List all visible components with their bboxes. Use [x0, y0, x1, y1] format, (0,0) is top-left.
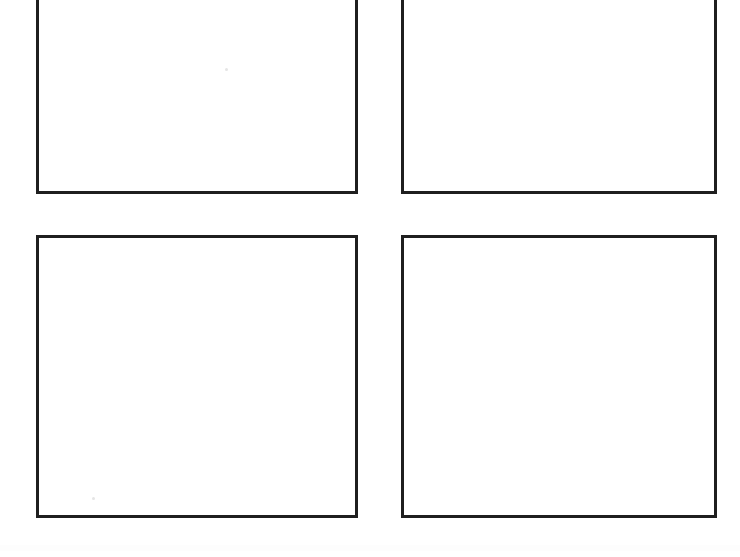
figure-panel-bottom-right — [401, 235, 717, 518]
figure-panel-top-left — [36, 0, 358, 194]
figure-panel-top-right — [401, 0, 717, 194]
figure-panel-bottom-left — [36, 235, 358, 518]
scan-noise-band — [0, 545, 740, 551]
scanned-page — [0, 0, 740, 557]
